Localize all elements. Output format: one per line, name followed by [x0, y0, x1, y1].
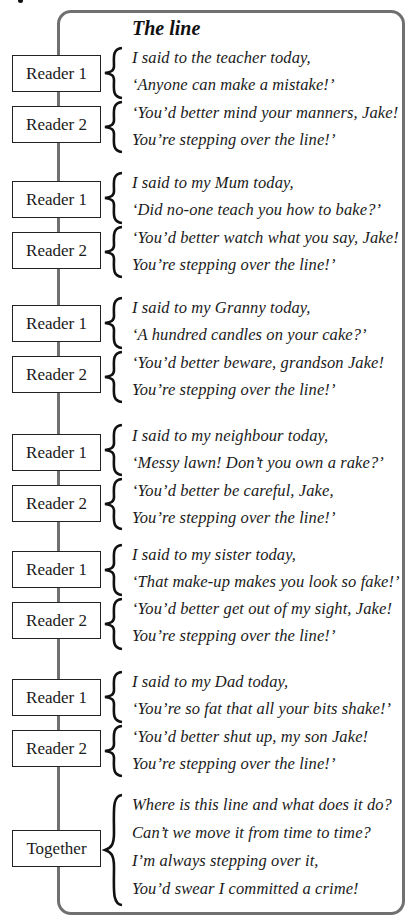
- poem-line: I said to the teacher today,: [132, 48, 311, 68]
- poem-line: ‘A hundred candles on your cake?’: [132, 325, 367, 345]
- poem-line: ‘You’d better get out of my sight, Jake!: [132, 599, 392, 619]
- poem-line: I said to my Mum today,: [132, 173, 294, 193]
- speaker-box-reader-1: Reader 1: [12, 305, 101, 342]
- speaker-box-reader-2: Reader 2: [12, 356, 101, 393]
- poem-line: ‘You’d better be careful, Jake,: [132, 481, 334, 501]
- poem-line: You’re stepping over the line!’: [132, 130, 336, 150]
- poem-line: You’re stepping over the line!’: [132, 754, 336, 774]
- brace-icon: [100, 793, 128, 907]
- brace-icon: [100, 670, 128, 724]
- poem-line: ‘That make-up makes you look so fake!’: [132, 572, 400, 592]
- speaker-box-reader-1: Reader 1: [12, 434, 101, 471]
- poem-line: You’re stepping over the line!’: [132, 380, 336, 400]
- poem-line: I’m always stepping over it,: [132, 851, 319, 871]
- poem-line: Where is this line and what does it do?: [132, 795, 392, 815]
- speaker-box-reader-1: Reader 1: [12, 181, 101, 218]
- brace-icon: [100, 171, 128, 225]
- speaker-box-together: Together: [12, 830, 101, 867]
- poem-line: ‘You’re so fat that all your bits shake!…: [132, 699, 391, 719]
- poem-line: ‘Anyone can make a mistake!’: [132, 75, 335, 95]
- speaker-box-reader-1: Reader 1: [12, 679, 101, 716]
- poem-line: I said to my neighbour today,: [132, 426, 328, 446]
- poem-line: You’d swear I committed a crime!: [132, 879, 359, 899]
- speaker-box-reader-2: Reader 2: [12, 602, 101, 639]
- poem-line: You’re stepping over the line!’: [132, 626, 336, 646]
- speaker-box-reader-2: Reader 2: [12, 485, 101, 522]
- speaker-box-reader-2: Reader 2: [12, 106, 101, 143]
- poem-line: ‘You’d better shut up, my son Jake!: [132, 727, 368, 747]
- poem-line: ‘Did no-one teach you how to bake?’: [132, 200, 381, 220]
- corner-mark: [18, 0, 23, 3]
- brace-icon: [100, 225, 128, 279]
- poem-line: You’re stepping over the line!’: [132, 508, 336, 528]
- poem-line: Can’t we move it from time to time?: [132, 823, 371, 843]
- speaker-box-reader-2: Reader 2: [12, 730, 101, 767]
- brace-icon: [100, 100, 128, 154]
- poem-line: ‘Messy lawn! Don’t you own a rake?’: [132, 453, 384, 473]
- poem-line: I said to my Dad today,: [132, 672, 288, 692]
- speaker-box-reader-2: Reader 2: [12, 232, 101, 269]
- speaker-box-reader-1: Reader 1: [12, 551, 101, 588]
- brace-icon: [100, 477, 128, 531]
- poem-line: You’re stepping over the line!’: [132, 255, 336, 275]
- brace-icon: [100, 724, 128, 778]
- poem-line: I said to my sister today,: [132, 545, 296, 565]
- brace-icon: [100, 423, 128, 477]
- poem-title: The line: [132, 17, 200, 40]
- poem-line: ‘You’d better mind your manners, Jake!: [132, 103, 398, 123]
- brace-icon: [100, 46, 128, 100]
- brace-icon: [100, 350, 128, 404]
- poem-line: ‘You’d better beware, grandson Jake!: [132, 353, 384, 373]
- poem-line: ‘You’d better watch what you say, Jake!: [132, 228, 399, 248]
- brace-icon: [100, 597, 128, 651]
- poem-line: I said to my Granny today,: [132, 298, 311, 318]
- speaker-box-reader-1: Reader 1: [12, 55, 101, 92]
- brace-icon: [100, 543, 128, 597]
- brace-icon: [100, 296, 128, 350]
